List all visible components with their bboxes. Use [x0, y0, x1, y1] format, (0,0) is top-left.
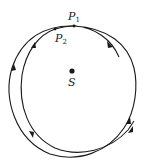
focus-label: S: [68, 76, 76, 89]
point-p1-label: P1: [67, 10, 80, 24]
arrow-bottom-left-inner-icon: [29, 131, 34, 138]
point-p2: [54, 28, 57, 31]
arrow-right-outer-icon: [126, 117, 131, 124]
outer-orbit: [9, 26, 136, 157]
inner-orbit: [21, 29, 134, 152]
orbit-diagram: S P1 P2: [0, 0, 145, 167]
focus-point: [69, 68, 74, 73]
point-p1: [73, 25, 76, 28]
point-p2-label: P2: [54, 32, 67, 46]
